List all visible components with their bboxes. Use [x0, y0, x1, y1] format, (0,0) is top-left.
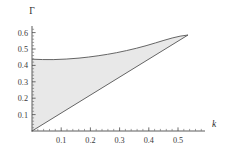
x-tick-label-4: 0.5	[173, 136, 183, 145]
y-tick-label-1: 0.2	[18, 94, 28, 103]
chart-figure: 0.1 0.2 0.3 0.4 0.5 0.6 0.1 0.2 0.3 0.4 …	[0, 0, 225, 157]
y-tick-label-5: 0.6	[18, 29, 28, 38]
x-tick-label-1: 0.2	[85, 136, 95, 145]
y-axis-title: Γ	[29, 6, 35, 16]
plot-canvas: 0.1 0.2 0.3 0.4 0.5 0.6 0.1 0.2 0.3 0.4 …	[0, 0, 225, 157]
x-axis-title: k	[212, 119, 217, 129]
x-tick-label-0: 0.1	[56, 136, 66, 145]
y-tick-label-3: 0.4	[18, 61, 28, 70]
y-tick-label-2: 0.3	[18, 78, 28, 87]
y-tick-label-0: 0.1	[18, 111, 28, 120]
y-tick-label-4: 0.5	[18, 45, 28, 54]
x-tick-label-2: 0.3	[114, 136, 124, 145]
x-tick-label-3: 0.4	[144, 136, 154, 145]
